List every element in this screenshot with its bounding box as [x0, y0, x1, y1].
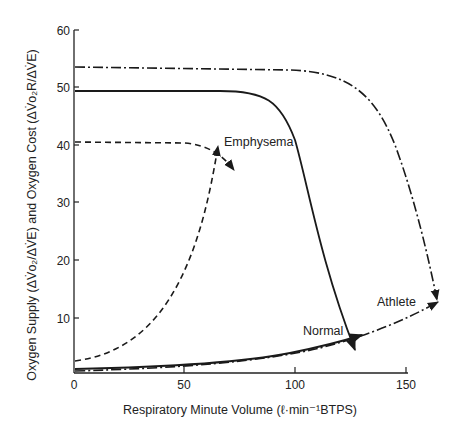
x-axis-title: Respiratory Minute Volume (ℓ·min⁻¹BTPS)	[123, 403, 357, 417]
x-tick-0: 0	[71, 378, 78, 392]
emphysema-supply-curve	[75, 142, 234, 170]
y-tick-20: 20	[57, 254, 71, 268]
y-axis	[74, 30, 79, 373]
x-tick-50: 50	[177, 378, 191, 392]
y-tick-40: 40	[57, 139, 71, 153]
x-tick-150: 150	[396, 378, 416, 392]
normal-cost-curve	[75, 335, 362, 369]
normal-supply-curve	[75, 91, 355, 350]
y-tick-50: 50	[57, 81, 71, 95]
athlete-cost-curve	[75, 302, 438, 371]
y-tick-10: 10	[57, 312, 71, 326]
athlete-supply-curve	[75, 67, 437, 300]
normal-label: Normal	[303, 324, 343, 338]
y-tick-60: 60	[57, 24, 71, 38]
athlete-label: Athlete	[377, 295, 416, 309]
emphysema-cost-curve	[75, 146, 218, 361]
emphysema-label: Emphysema	[224, 135, 294, 149]
chart-canvas: 60 50 40 30 20 10 0 50 100 150 Respirato…	[0, 0, 463, 425]
y-tick-30: 30	[57, 196, 71, 210]
y-axis-title: Oxygen Supply (ΔV̇o₂/ΔV̇E) and Oxygen Co…	[25, 49, 39, 380]
x-tick-100: 100	[285, 378, 305, 392]
